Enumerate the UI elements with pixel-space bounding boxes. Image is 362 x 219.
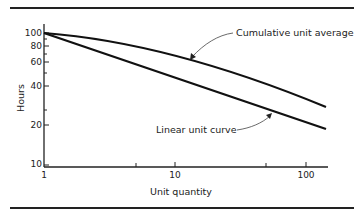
y-tick-10: 10 [31, 159, 43, 169]
y-tick-80: 80 [31, 41, 43, 51]
y-tick-20: 20 [31, 120, 43, 130]
y-tick-40: 40 [31, 81, 43, 91]
cumulative-average-label: Cumulative unit average [236, 27, 354, 38]
linear-unit-label: Linear unit curve [156, 124, 237, 135]
x-tick-10: 10 [169, 170, 181, 180]
y-tick-100: 100 [25, 28, 42, 38]
learning-curve-chart: 100 80 60 40 20 10 1 10 100 Unit quantit… [0, 0, 362, 219]
linear-unit-curve [44, 33, 326, 129]
linear-arrow [237, 116, 270, 130]
x-tick-1: 1 [41, 170, 47, 180]
cumulative-average-curve [44, 33, 326, 107]
y-tick-60: 60 [31, 57, 43, 67]
x-tick-100: 100 [297, 170, 314, 180]
x-ticks [136, 162, 306, 167]
x-axis-label: Unit quantity [150, 186, 212, 197]
y-ticks [44, 33, 49, 165]
cumulative-arrow [192, 33, 233, 57]
y-axis-label: Hours [15, 84, 26, 112]
